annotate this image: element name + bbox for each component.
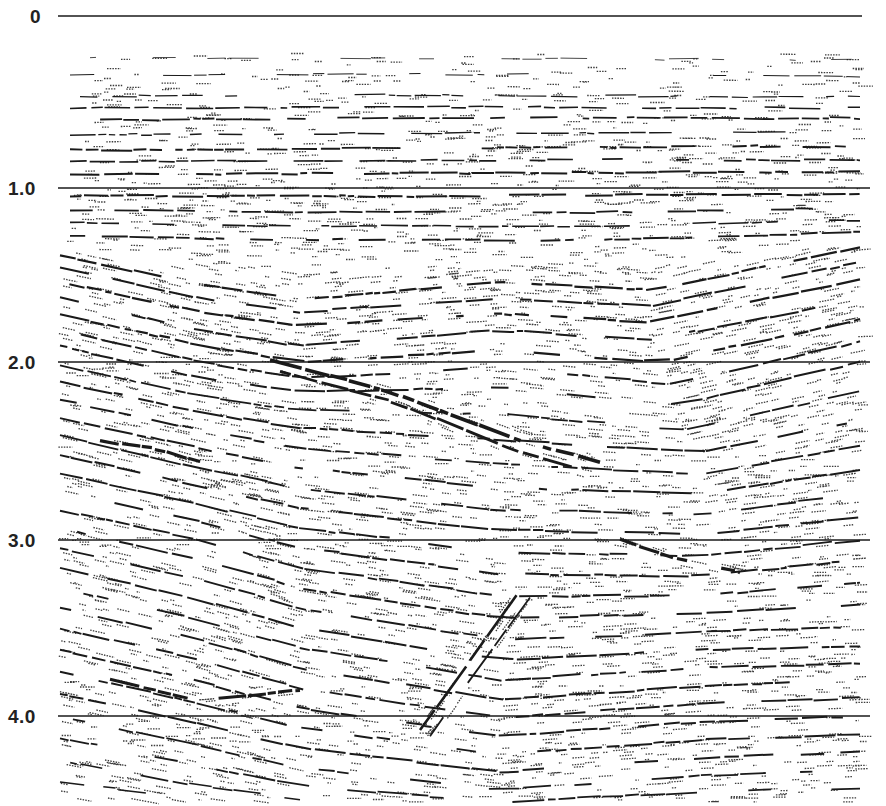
- reflector: [70, 106, 860, 109]
- reflector: [70, 208, 813, 213]
- reflector: [70, 74, 860, 78]
- reflector: [70, 159, 860, 162]
- reflector: [280, 371, 572, 466]
- reflector: [60, 263, 856, 313]
- reflector: [70, 763, 300, 800]
- reflector: [90, 57, 852, 60]
- reflector: [60, 629, 860, 717]
- reflector: [69, 279, 860, 325]
- reflector: [60, 694, 860, 773]
- reflector: [60, 608, 790, 700]
- reflector: [70, 232, 860, 241]
- reflector: [60, 400, 860, 474]
- reflector: [60, 346, 860, 404]
- seismic-section-figure: 0 1.0 2.0 3.0 4.0: [0, 0, 886, 806]
- reflector: [60, 474, 860, 556]
- reflector: [100, 117, 860, 120]
- reflector: [270, 360, 600, 462]
- reflector: [60, 314, 860, 362]
- reflector: [77, 532, 860, 618]
- reflector-horizons: [60, 57, 860, 802]
- noise-texture: [58, 54, 872, 804]
- reflector: [70, 145, 846, 150]
- background-wiggle-texture: [58, 54, 872, 804]
- reflector: [80, 94, 860, 97]
- reflector: [70, 132, 786, 135]
- reflector: [60, 568, 860, 660]
- reflector: [70, 194, 860, 197]
- reflector: [70, 220, 860, 227]
- reflector: [60, 247, 860, 298]
- reflector: [60, 672, 860, 752]
- seismic-reflection-plot: [0, 0, 886, 806]
